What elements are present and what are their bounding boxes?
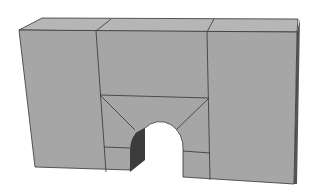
block-arch-svg — [0, 0, 313, 195]
front-face — [19, 30, 297, 184]
block-arch-figure — [0, 0, 313, 195]
top-face — [19, 18, 298, 32]
